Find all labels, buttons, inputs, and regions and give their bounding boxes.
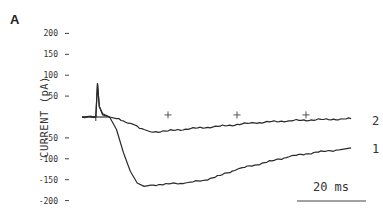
y-tick-label: -150 (39, 176, 58, 185)
y-tick-label: -200 (39, 197, 58, 206)
annotations: 1220 ms (297, 114, 379, 201)
scale-bar-label: 20 ms (313, 180, 349, 194)
y-tick-label: 100 (44, 71, 59, 80)
trace-1 (82, 84, 351, 187)
y-tick-label: -100 (39, 155, 58, 164)
trace-2-label: 2 (372, 114, 379, 128)
y-tick-label: 50 (48, 92, 58, 101)
cross-markers (165, 111, 310, 118)
y-tick-label: 150 (44, 50, 59, 59)
current-trace-chart: 20015010050-50-100-150-200 1220 ms (0, 0, 383, 215)
y-tick-label: -50 (44, 134, 59, 143)
y-tick-label: 200 (44, 29, 59, 38)
y-axis-ticks: 20015010050-50-100-150-200 (39, 29, 69, 205)
trace-1-label: 1 (372, 142, 379, 156)
traces (82, 84, 351, 187)
trace-2 (82, 84, 351, 133)
